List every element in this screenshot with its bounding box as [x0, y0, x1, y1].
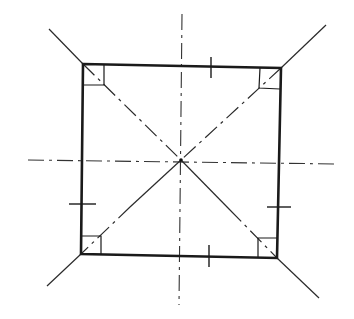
- right-angle-mark-bottom-left: [81, 236, 101, 255]
- square-diagram: [0, 0, 354, 319]
- diagram-canvas: [0, 0, 354, 319]
- center-point: [179, 158, 183, 162]
